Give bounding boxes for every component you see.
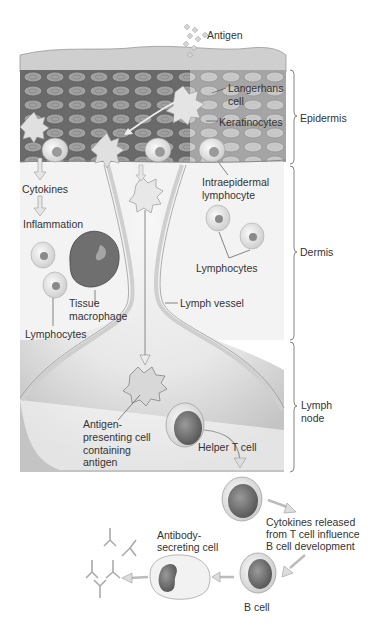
label-intraepidermal-line2: lymphocyte [202,189,255,201]
label-lymph-vessel: Lymph vessel [180,297,244,309]
label-antibody-secreting-line2: secreting cell [157,541,218,553]
b-cell [240,553,305,593]
region-brackets [290,70,297,472]
label-lymphocytes-left: Lymphocytes [25,328,86,340]
label-tissue-line1: Tissue [69,297,100,309]
label-keratinocytes: Keratinocytes [219,116,283,128]
label-apc-line3: containing [83,444,131,456]
activated-t-cell [222,477,296,521]
label-cytokines-released-line3: B cell development [266,540,355,552]
label-intraepidermal-line1: Intraepidermal [202,176,269,188]
label-tissue-line2: macrophage [69,310,127,322]
label-langerhans-cell-line2: cell [228,95,244,107]
antibodies [86,528,136,598]
label-apc-line2: presenting cell [83,431,151,443]
region-label-lymph-node-line2: node [301,412,324,424]
label-apc-line1: Antigen- [83,418,122,430]
region-label-epidermis: Epidermis [300,112,347,124]
antibody-secreting-cell [122,555,234,599]
label-cytokines-released-line2: from T cell influence [266,528,360,540]
label-langerhans-cell-line1: Langerhans [228,82,283,94]
label-inflammation: Inflammation [23,218,83,230]
region-label-dermis: Dermis [300,246,333,258]
label-lymphocytes-right: Lymphocytes [196,262,257,274]
label-antigen: Antigen [207,29,243,41]
label-cytokines-released-line1: Cytokines released [266,516,355,528]
label-apc-line4: antigen [83,456,117,468]
label-cytokines: Cytokines [22,183,68,195]
label-helper-t-cell: Helper T cell [198,441,257,453]
label-b-cell: B cell [244,601,270,613]
label-antibody-secreting-line1: Antibody- [157,529,201,541]
region-label-lymph-node-line1: Lymph [301,399,332,411]
